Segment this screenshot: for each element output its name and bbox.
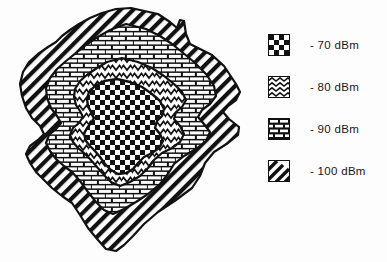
checkerboard-swatch (268, 34, 290, 56)
diagonal-swatch (268, 160, 290, 182)
coverage-map (0, 0, 250, 262)
legend-label-minus-80: - 80 dBm (310, 81, 359, 93)
legend-row-minus-90: - 90 dBm (268, 117, 387, 141)
legend-label-minus-100: - 100 dBm (310, 165, 366, 177)
legend-row-minus-100: - 100 dBm (268, 159, 387, 183)
brick-swatch (268, 118, 290, 140)
legend-label-minus-70: - 70 dBm (310, 39, 359, 51)
legend: - 70 dBm - 80 dBm (268, 30, 387, 200)
signal-coverage-figure: - 70 dBm - 80 dBm (0, 0, 387, 262)
zigzag-swatch (268, 76, 290, 98)
legend-label-minus-90: - 90 dBm (310, 123, 359, 135)
legend-row-minus-80: - 80 dBm (268, 75, 387, 99)
coverage-map-svg (0, 0, 250, 262)
legend-row-minus-70: - 70 dBm (268, 33, 387, 57)
